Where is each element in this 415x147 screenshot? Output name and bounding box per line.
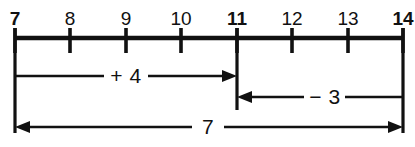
- jump-subtract-3: − 3: [237, 85, 403, 108]
- tick-label-12: 12: [281, 8, 302, 29]
- tick-label-9: 9: [121, 8, 132, 29]
- jump-add-4: + 4: [15, 64, 237, 87]
- span-total-7-arrowhead-right: [388, 121, 403, 133]
- tick-group: [15, 28, 403, 53]
- tick-label-11: 11: [227, 8, 248, 29]
- tick-label-8: 8: [65, 8, 76, 29]
- tick-label-group: 7 8 9 10 11 12 13 14: [10, 8, 414, 29]
- tick-label-13: 13: [337, 8, 358, 29]
- jump-subtract-3-label: − 3: [309, 85, 340, 108]
- tick-label-10: 10: [170, 8, 191, 29]
- jump-subtract-3-arrowhead-left: [237, 91, 252, 103]
- span-total-7-label: 7: [202, 115, 214, 138]
- span-total-7: 7: [15, 115, 403, 138]
- jump-add-4-arrowhead-right: [222, 70, 237, 82]
- number-line-canvas: 7 8 9 10 11 12 13 14 + 4 − 3: [0, 0, 415, 147]
- number-line-figure: 7 8 9 10 11 12 13 14 + 4 − 3: [0, 0, 415, 147]
- span-total-7-arrowhead-left: [15, 121, 30, 133]
- jump-add-4-label: + 4: [110, 64, 141, 87]
- tick-label-14: 14: [392, 8, 414, 29]
- tick-label-7: 7: [10, 8, 21, 29]
